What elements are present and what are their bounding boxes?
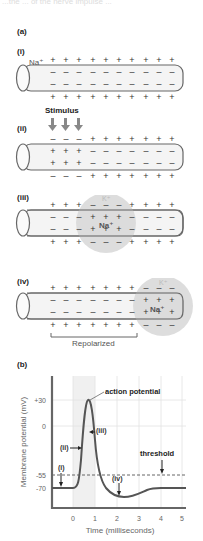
svg-text:–: – [76, 295, 81, 305]
svg-text:+: + [129, 171, 134, 181]
svg-text:+: + [50, 237, 55, 247]
svg-text:+: + [103, 134, 108, 144]
svg-text:–: – [169, 158, 174, 168]
svg-text:+: + [50, 55, 55, 65]
svg-text:–: – [143, 67, 148, 77]
y-axis-label: Membrane potential (mV) [19, 397, 28, 488]
svg-text:–: – [63, 171, 68, 181]
svg-text:+: + [143, 295, 148, 305]
annotation-action-potential: action potential [105, 387, 160, 396]
svg-text:–: – [90, 146, 95, 156]
svg-text:+: + [116, 320, 121, 330]
shaded-region [73, 376, 95, 508]
svg-text:+: + [143, 171, 148, 181]
svg-text:+: + [116, 283, 121, 293]
annotation-i: (i) [58, 464, 65, 472]
svg-text:–: – [116, 67, 121, 77]
svg-text:–: – [116, 295, 121, 305]
svg-text:–: – [76, 171, 81, 181]
svg-text:–: – [50, 295, 55, 305]
svg-text:–: – [156, 212, 161, 222]
svg-text:–: – [156, 67, 161, 77]
svg-text:–: – [143, 158, 148, 168]
svg-text:–: – [63, 307, 68, 317]
svg-text:–: – [76, 134, 81, 144]
svg-text:+: + [90, 320, 95, 330]
svg-text:–: – [90, 237, 95, 247]
svg-text:–: – [156, 320, 161, 330]
svg-text:–: – [103, 67, 108, 77]
svg-text:–: – [50, 67, 55, 77]
svg-text:–: – [90, 79, 95, 89]
stage-iv-k-ion: K⁺ [159, 279, 167, 287]
svg-text:+: + [63, 200, 68, 210]
down-arrow-icon [59, 482, 63, 487]
y-tick-neg55: -55 [36, 472, 46, 479]
svg-text:–: – [90, 307, 95, 317]
svg-text:–: – [169, 320, 174, 330]
svg-text:–: – [129, 295, 134, 305]
svg-text:+: + [50, 92, 55, 102]
svg-text:–: – [50, 79, 55, 89]
stage-iv-na-ion: Na⁺ [150, 305, 164, 314]
svg-text:–: – [103, 146, 108, 156]
annotation-threshold: threshold [140, 449, 175, 458]
svg-text:+: + [63, 237, 68, 247]
svg-text:+: + [143, 55, 148, 65]
svg-text:–: – [116, 237, 121, 247]
x-tick-3: 3 [137, 515, 141, 522]
svg-text:–: – [76, 67, 81, 77]
x-tick-0: 0 [71, 515, 75, 522]
svg-text:+: + [156, 237, 161, 247]
svg-text:–: – [90, 158, 95, 168]
svg-text:+: + [156, 134, 161, 144]
svg-text:+: + [63, 158, 68, 168]
svg-text:+: + [169, 171, 174, 181]
svg-text:–: – [63, 224, 68, 234]
x-axis-label: Time (milliseconds) [86, 526, 155, 535]
svg-text:–: – [143, 79, 148, 89]
svg-text:+: + [90, 171, 95, 181]
svg-text:–: – [76, 224, 81, 234]
svg-text:–: – [116, 158, 121, 168]
svg-text:+: + [50, 200, 55, 210]
x-tick-5: 5 [180, 515, 184, 522]
svg-text:+: + [90, 283, 95, 293]
svg-text:+: + [90, 212, 95, 222]
svg-text:+: + [50, 320, 55, 330]
y-tick-0: 0 [42, 423, 46, 430]
svg-text:+: + [76, 200, 81, 210]
svg-text:+: + [63, 55, 68, 65]
svg-text:+: + [116, 224, 121, 234]
svg-text:+: + [116, 212, 121, 222]
svg-text:+: + [90, 92, 95, 102]
svg-text:+: + [156, 92, 161, 102]
svg-text:+: + [156, 200, 161, 210]
svg-text:+: + [90, 55, 95, 65]
svg-text:+: + [76, 237, 81, 247]
cropped-header-text: ...the ... of the nerve impulse ... [2, 0, 112, 6]
svg-text:–: – [156, 146, 161, 156]
svg-text:–: – [169, 146, 174, 156]
svg-text:+: + [129, 134, 134, 144]
svg-text:+: + [63, 146, 68, 156]
y-tick-neg70: -70 [36, 485, 46, 492]
svg-text:–: – [103, 158, 108, 168]
svg-text:+: + [63, 92, 68, 102]
svg-text:+: + [63, 283, 68, 293]
svg-text:+: + [116, 92, 121, 102]
svg-text:–: – [90, 295, 95, 305]
svg-text:+: + [76, 92, 81, 102]
svg-text:–: – [76, 79, 81, 89]
svg-text:–: – [169, 67, 174, 77]
stage-iii-k-ion: K⁺ [102, 195, 110, 203]
svg-text:–: – [50, 224, 55, 234]
annotation-ii: (ii) [60, 444, 69, 452]
svg-text:+: + [156, 295, 161, 305]
svg-text:–: – [50, 134, 55, 144]
svg-text:+: + [103, 55, 108, 65]
part-b-label: (b) [17, 360, 27, 369]
svg-text:–: – [116, 146, 121, 156]
svg-text:–: – [63, 67, 68, 77]
svg-text:–: – [116, 79, 121, 89]
